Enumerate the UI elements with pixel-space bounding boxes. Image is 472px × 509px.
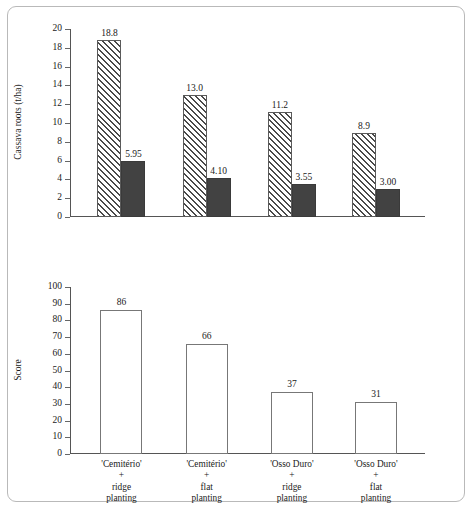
x-category-line: 'Cemitério' [186,459,227,470]
plot-area-cassava: 02468101214161820 18.85.9513.04.1011.23.… [70,29,425,217]
bar-score [186,344,228,454]
x-category-line: planting [354,493,397,504]
x-category-line: 'Osso Duro' [354,459,397,470]
y-tick-label: 6 [32,156,62,166]
bar-solid [207,178,231,217]
x-category-line: planting [101,493,142,504]
y-tick-mark [65,85,70,86]
y-axis-line-cassava [70,29,71,217]
x-category-line: flat [354,482,397,493]
bar-hatched [268,112,292,217]
bar-solid [376,189,400,217]
bar-value-label: 8.9 [358,121,370,131]
y-tick-label: 4 [32,175,62,185]
y-tick-label: 80 [32,316,62,326]
bar-score [100,310,142,454]
y-tick-mark [65,104,70,105]
x-category-label: 'Osso Duro'+ridgeplanting [270,459,313,505]
bar-value-label: 37 [287,379,297,389]
y-tick-mark [65,161,70,162]
x-category-line: + [270,470,313,481]
bar-hatched [183,95,207,217]
bar-score [271,392,313,454]
bar-hatched [97,40,121,217]
y-tick-label: 2 [32,193,62,203]
y-tick-label: 20 [32,24,62,34]
y-tick-mark [65,437,70,438]
y-tick-label: 0 [32,449,62,459]
y-tick-mark [65,304,70,305]
y-tick-mark [65,48,70,49]
x-category-label: 'Cemitério'+flatplanting [186,459,227,505]
bar-score [355,402,397,454]
bar-solid [121,161,145,217]
x-category-line: planting [270,493,313,504]
y-tick-label: 18 [32,43,62,53]
bar-value-label: 3.55 [296,172,313,182]
y-tick-mark [65,320,70,321]
y-tick-label: 12 [32,99,62,109]
x-category-line: + [354,470,397,481]
x-category-line: planting [186,493,227,504]
y-tick-label: 30 [32,399,62,409]
x-category-line: + [101,470,142,481]
y-tick-label: 14 [32,81,62,91]
figure-container: Cassava roots (t/ha) 02468101214161820 1… [0,0,472,509]
y-tick-label: 10 [32,118,62,128]
y-tick-label: 70 [32,332,62,342]
chart-score: Score 0102030405060708090100 86663731 'C… [70,287,425,454]
y-tick-mark [65,217,70,218]
y-tick-label: 50 [32,366,62,376]
y-axis-title-cassava: Cassava roots (t/ha) [13,28,23,216]
y-tick-label: 0 [32,212,62,222]
bar-value-label: 13.0 [186,83,203,93]
x-category-line: ridge [270,482,313,493]
bar-value-label: 5.95 [125,149,142,159]
y-tick-mark [65,179,70,180]
bar-value-label: 66 [202,331,212,341]
chart-cassava-roots: Cassava roots (t/ha) 02468101214161820 1… [70,29,425,217]
y-tick-label: 60 [32,349,62,359]
y-tick-label: 10 [32,433,62,443]
bar-solid [292,184,316,217]
y-axis-title-score: Score [13,286,23,453]
y-tick-mark [65,354,70,355]
y-tick-label: 8 [32,137,62,147]
y-tick-mark [65,337,70,338]
y-tick-mark [65,142,70,143]
y-tick-mark [65,123,70,124]
y-tick-mark [65,29,70,30]
y-tick-label: 20 [32,416,62,426]
x-category-line: 'Cemitério' [101,459,142,470]
bar-value-label: 4.10 [210,166,227,176]
x-category-line: ridge [101,482,142,493]
y-tick-label: 90 [32,299,62,309]
x-category-line: + [186,470,227,481]
x-category-label: 'Cemitério'+ridgeplanting [101,459,142,505]
y-tick-label: 100 [32,282,62,292]
bar-value-label: 18.8 [101,28,118,38]
bar-value-label: 3.00 [380,177,397,187]
y-tick-mark [65,421,70,422]
x-category-line: 'Osso Duro' [270,459,313,470]
y-tick-mark [65,67,70,68]
y-tick-mark [65,387,70,388]
bar-hatched [352,133,376,217]
y-axis-line-score [70,287,71,454]
plot-area-score: 0102030405060708090100 86663731 [70,287,425,454]
x-category-line: flat [186,482,227,493]
bar-value-label: 86 [117,297,127,307]
bar-value-label: 11.2 [272,100,288,110]
y-tick-mark [65,287,70,288]
y-tick-label: 16 [32,62,62,72]
y-tick-mark [65,404,70,405]
x-category-label: 'Osso Duro'+flatplanting [354,459,397,505]
y-tick-mark [65,198,70,199]
y-tick-mark [65,371,70,372]
y-tick-mark [65,454,70,455]
y-tick-label: 40 [32,382,62,392]
bar-value-label: 31 [371,389,381,399]
